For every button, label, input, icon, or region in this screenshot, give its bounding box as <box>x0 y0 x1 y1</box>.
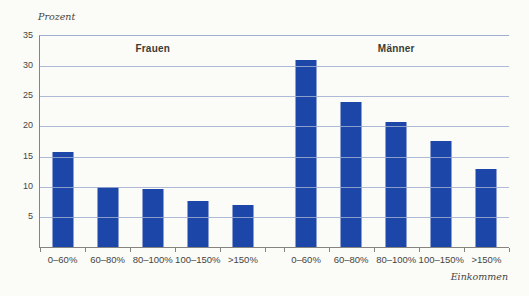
x-tick-label: 100–150% <box>419 254 464 265</box>
x-axis-tick <box>265 248 266 252</box>
category-slot: >150% <box>464 36 509 247</box>
x-axis-tick <box>464 248 465 252</box>
x-tick-label: 0–60% <box>48 254 78 265</box>
x-tick-label: 80–100% <box>133 254 173 265</box>
y-tick-label-10: 10 <box>0 181 33 191</box>
gridline-30 <box>40 66 509 67</box>
y-tick-label-15: 15 <box>0 151 33 161</box>
category-slot: 100–150% <box>175 36 220 247</box>
bar-group-männer: Männer0–60%60–80%80–100%100–150%>150% <box>284 36 510 247</box>
x-axis-tick <box>374 248 375 252</box>
category-slot: 0–60% <box>40 36 85 247</box>
chart-canvas: Prozent Frauen0–60%60–80%80–100%100–150%… <box>0 0 529 296</box>
bar-group-frauen: Frauen0–60%60–80%80–100%100–150%>150% <box>40 36 266 247</box>
y-tick-label-30: 30 <box>0 60 33 70</box>
group-slots: 0–60%60–80%80–100%100–150%>150% <box>40 36 266 247</box>
x-tick-label: 0–60% <box>291 254 321 265</box>
y-tick-label-35: 35 <box>0 30 33 40</box>
x-axis-tick <box>419 248 420 252</box>
x-axis-unit-label: Einkommen <box>451 271 508 282</box>
category-slot: 0–60% <box>284 36 329 247</box>
gridline-20 <box>40 126 509 127</box>
bar-männer-0–60% <box>296 60 317 247</box>
gridline-5 <box>40 217 509 218</box>
x-tick-label: 80–100% <box>376 254 416 265</box>
category-slot: 60–80% <box>85 36 130 247</box>
x-axis-tick <box>509 248 510 252</box>
x-tick-label: 100–150% <box>175 254 220 265</box>
bar-frauen-100–150% <box>187 201 208 247</box>
x-tick-label: 60–80% <box>90 254 125 265</box>
category-slot: >150% <box>220 36 265 247</box>
bar-frauen-80–100% <box>142 189 163 247</box>
gridline-25 <box>40 96 509 97</box>
x-axis-tick <box>85 248 86 252</box>
x-tick-label: >150% <box>228 254 258 265</box>
category-slot: 80–100% <box>130 36 175 247</box>
x-axis-tick <box>40 248 41 252</box>
x-tick-label: >150% <box>471 254 501 265</box>
plot-area: Frauen0–60%60–80%80–100%100–150%>150%Män… <box>39 35 509 248</box>
y-tick-label-20: 20 <box>0 120 33 130</box>
bar-frauen->150% <box>232 205 253 247</box>
bar-groups-row: Frauen0–60%60–80%80–100%100–150%>150%Män… <box>40 36 509 247</box>
bar-frauen-0–60% <box>52 152 73 247</box>
x-axis-tick <box>175 248 176 252</box>
y-tick-label-25: 25 <box>0 90 33 100</box>
x-axis-tick <box>329 248 330 252</box>
category-slot: 80–100% <box>374 36 419 247</box>
y-tick-label-5: 5 <box>0 211 33 221</box>
bar-männer-80–100% <box>386 122 407 247</box>
x-tick-label: 60–80% <box>334 254 369 265</box>
y-axis-unit-label: Prozent <box>38 11 75 22</box>
category-slot: 100–150% <box>419 36 464 247</box>
bar-männer->150% <box>476 169 497 247</box>
x-axis-tick <box>284 248 285 252</box>
x-axis-tick <box>220 248 221 252</box>
x-axis-tick <box>130 248 131 252</box>
gridline-15 <box>40 157 509 158</box>
group-slots: 0–60%60–80%80–100%100–150%>150% <box>284 36 510 247</box>
bar-männer-60–80% <box>341 102 362 247</box>
category-slot: 60–80% <box>329 36 374 247</box>
gridline-10 <box>40 187 509 188</box>
